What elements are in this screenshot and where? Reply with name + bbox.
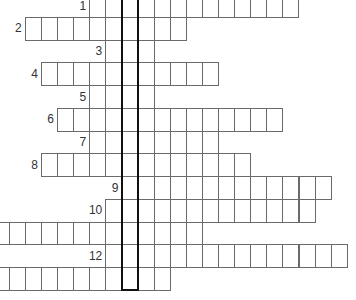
crossword-cell[interactable]	[105, 222, 122, 246]
crossword-cell[interactable]	[105, 153, 122, 177]
crossword-cell[interactable]	[154, 267, 171, 291]
crossword-cell[interactable]	[250, 0, 267, 18]
crossword-cell[interactable]	[266, 244, 283, 268]
crossword-cell[interactable]	[138, 153, 155, 177]
crossword-cell[interactable]	[138, 176, 155, 200]
crossword-cell[interactable]	[218, 0, 235, 18]
crossword-cell[interactable]	[266, 0, 283, 18]
crossword-cell[interactable]	[121, 108, 138, 132]
crossword-cell[interactable]	[138, 222, 155, 246]
crossword-cell[interactable]	[154, 199, 171, 223]
crossword-cell[interactable]	[218, 108, 235, 132]
crossword-cell[interactable]	[202, 176, 219, 200]
crossword-cell[interactable]	[138, 108, 155, 132]
crossword-cell[interactable]	[282, 244, 299, 268]
crossword-cell[interactable]	[105, 0, 122, 18]
crossword-cell[interactable]	[250, 176, 267, 200]
crossword-cell[interactable]	[89, 153, 106, 177]
crossword-cell[interactable]	[202, 131, 219, 155]
crossword-cell[interactable]	[315, 176, 332, 200]
crossword-cell[interactable]	[170, 17, 187, 41]
crossword-cell[interactable]	[186, 108, 203, 132]
crossword-cell[interactable]	[282, 0, 299, 18]
crossword-cell[interactable]	[170, 244, 187, 268]
crossword-cell[interactable]	[89, 17, 106, 41]
crossword-cell[interactable]	[138, 40, 155, 64]
crossword-cell[interactable]	[266, 176, 283, 200]
crossword-cell[interactable]	[138, 0, 155, 18]
crossword-cell[interactable]	[202, 153, 219, 177]
crossword-cell[interactable]	[89, 222, 106, 246]
crossword-cell[interactable]	[121, 176, 138, 200]
crossword-cell[interactable]	[154, 222, 171, 246]
crossword-cell[interactable]	[105, 40, 122, 64]
crossword-cell[interactable]	[218, 199, 235, 223]
crossword-cell[interactable]	[105, 62, 122, 86]
crossword-cell[interactable]	[121, 222, 138, 246]
crossword-cell[interactable]	[234, 176, 251, 200]
crossword-cell[interactable]	[138, 199, 155, 223]
crossword-cell[interactable]	[57, 267, 74, 291]
crossword-cell[interactable]	[121, 131, 138, 155]
crossword-cell[interactable]	[25, 17, 42, 41]
crossword-cell[interactable]	[170, 199, 187, 223]
crossword-cell[interactable]	[57, 222, 74, 246]
crossword-cell[interactable]	[154, 153, 171, 177]
crossword-cell[interactable]	[105, 131, 122, 155]
crossword-cell[interactable]	[73, 62, 90, 86]
crossword-cell[interactable]	[186, 222, 203, 246]
crossword-cell[interactable]	[105, 17, 122, 41]
crossword-cell[interactable]	[9, 267, 26, 291]
crossword-cell[interactable]	[154, 62, 171, 86]
crossword-cell[interactable]	[41, 153, 58, 177]
crossword-cell[interactable]	[186, 199, 203, 223]
crossword-cell[interactable]	[250, 244, 267, 268]
crossword-cell[interactable]	[41, 17, 58, 41]
crossword-cell[interactable]	[299, 176, 316, 200]
crossword-cell[interactable]	[105, 108, 122, 132]
crossword-cell[interactable]	[299, 199, 316, 223]
crossword-cell[interactable]	[250, 108, 267, 132]
crossword-cell[interactable]	[25, 267, 42, 291]
crossword-cell[interactable]	[186, 176, 203, 200]
crossword-cell[interactable]	[234, 199, 251, 223]
crossword-cell[interactable]	[315, 244, 332, 268]
crossword-cell[interactable]	[154, 244, 171, 268]
crossword-cell[interactable]	[89, 85, 106, 109]
crossword-cell[interactable]	[202, 108, 219, 132]
crossword-cell[interactable]	[202, 244, 219, 268]
crossword-cell[interactable]	[266, 108, 283, 132]
crossword-cell[interactable]	[331, 244, 348, 268]
crossword-cell[interactable]	[138, 17, 155, 41]
crossword-cell[interactable]	[138, 267, 155, 291]
crossword-cell[interactable]	[202, 0, 219, 18]
crossword-cell[interactable]	[282, 176, 299, 200]
crossword-cell[interactable]	[170, 108, 187, 132]
crossword-cell[interactable]	[170, 0, 187, 18]
crossword-cell[interactable]	[57, 108, 74, 132]
crossword-cell[interactable]	[170, 62, 187, 86]
crossword-cell[interactable]	[9, 222, 26, 246]
crossword-cell[interactable]	[121, 62, 138, 86]
crossword-cell[interactable]	[154, 108, 171, 132]
crossword-cell[interactable]	[57, 62, 74, 86]
crossword-cell[interactable]	[170, 153, 187, 177]
crossword-cell[interactable]	[121, 17, 138, 41]
crossword-cell[interactable]	[121, 267, 138, 291]
crossword-cell[interactable]	[234, 108, 251, 132]
crossword-cell[interactable]	[170, 131, 187, 155]
crossword-cell[interactable]	[105, 267, 122, 291]
crossword-cell[interactable]	[186, 153, 203, 177]
crossword-cell[interactable]	[121, 199, 138, 223]
crossword-cell[interactable]	[89, 267, 106, 291]
crossword-cell[interactable]	[73, 108, 90, 132]
crossword-cell[interactable]	[218, 176, 235, 200]
crossword-cell[interactable]	[41, 62, 58, 86]
crossword-cell[interactable]	[73, 222, 90, 246]
crossword-cell[interactable]	[170, 176, 187, 200]
crossword-cell[interactable]	[121, 0, 138, 18]
crossword-cell[interactable]	[266, 199, 283, 223]
crossword-cell[interactable]	[121, 40, 138, 64]
crossword-cell[interactable]	[170, 222, 187, 246]
crossword-cell[interactable]	[154, 0, 171, 18]
